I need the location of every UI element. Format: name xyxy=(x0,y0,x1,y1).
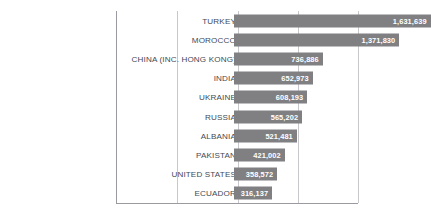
bar-value-label: 565,202 xyxy=(271,112,298,121)
bar-track: 1,371,830 xyxy=(234,33,399,46)
bar-track: 1,631,639 xyxy=(234,14,431,27)
bar: 736,886 xyxy=(234,52,323,65)
bar-row: CHINA (INC. HONG KONG)736,886 xyxy=(117,49,358,68)
bar-row: PAKISTAN421,002 xyxy=(117,145,358,164)
bar-value-label: 608,193 xyxy=(276,93,303,102)
bar-track: 736,886 xyxy=(234,52,323,65)
category-axis-line xyxy=(116,203,358,204)
bar-row: ECUADOR316,137 xyxy=(117,184,358,203)
category-label: ECUADOR xyxy=(194,189,236,198)
bar: 316,137 xyxy=(234,187,272,200)
bar-track: 316,137 xyxy=(234,187,272,200)
bar-track: 421,002 xyxy=(234,148,285,161)
bar: 565,202 xyxy=(234,110,302,123)
bar-track: 565,202 xyxy=(234,110,302,123)
plot-area: TURKEY1,631,639MOROCCO1,371,830CHINA (IN… xyxy=(117,11,358,203)
bar-value-label: 316,137 xyxy=(241,189,268,198)
bar: 521,481 xyxy=(234,129,297,142)
bar-row: TURKEY1,631,639 xyxy=(117,11,358,30)
category-label: TURKEY xyxy=(202,16,236,25)
bar-track: 652,973 xyxy=(234,72,313,85)
bar-row: UKRAINE608,193 xyxy=(117,88,358,107)
bar-value-label: 1,371,830 xyxy=(362,35,396,44)
bar-track: 608,193 xyxy=(234,91,307,104)
bar-value-label: 358,572 xyxy=(246,170,273,179)
category-label: RUSSIA xyxy=(205,112,236,121)
category-label: UKRAINE xyxy=(199,93,236,102)
category-label: UNITED STATES xyxy=(171,170,236,179)
bar: 652,973 xyxy=(234,72,313,85)
bar: 358,572 xyxy=(234,168,277,181)
bar-value-label: 1,631,639 xyxy=(393,16,427,25)
bar: 1,631,639 xyxy=(234,14,431,27)
category-label: PAKISTAN xyxy=(196,150,236,159)
bar-value-label: 421,002 xyxy=(253,150,280,159)
bar-row: RUSSIA565,202 xyxy=(117,107,358,126)
bar-row: MOROCCO1,371,830 xyxy=(117,30,358,49)
bar-value-label: 521,481 xyxy=(265,131,292,140)
bar-row: UNITED STATES358,572 xyxy=(117,165,358,184)
category-label: MOROCCO xyxy=(192,35,236,44)
bar-track: 521,481 xyxy=(234,129,297,142)
bar-row: ALBANIA521,481 xyxy=(117,126,358,145)
bar: 1,371,830 xyxy=(234,33,399,46)
bar: 608,193 xyxy=(234,91,307,104)
bar-value-label: 736,886 xyxy=(291,54,318,63)
bar-value-label: 652,973 xyxy=(281,74,308,83)
bar: 421,002 xyxy=(234,148,285,161)
category-label: INDIA xyxy=(214,74,236,83)
bar-track: 358,572 xyxy=(234,168,277,181)
bar-row: INDIA652,973 xyxy=(117,69,358,88)
category-label: ALBANIA xyxy=(201,131,236,140)
category-label: CHINA (INC. HONG KONG) xyxy=(132,54,236,63)
